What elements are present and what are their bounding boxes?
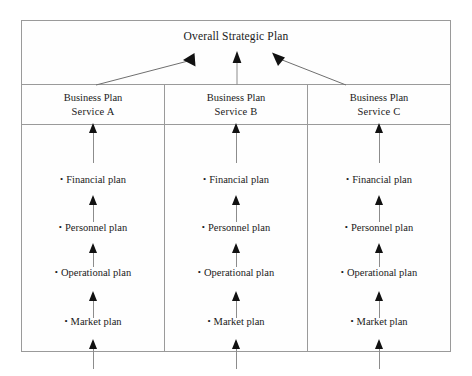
- arrow-head-personnel-to-financial: [89, 195, 97, 205]
- plan-item: •Personnel plan: [308, 222, 450, 233]
- plan-item: •Operational plan: [22, 267, 164, 278]
- plan-item-label: Operational plan: [347, 267, 417, 278]
- plan-item-label: Market plan: [71, 316, 122, 327]
- plan-item: •Financial plan: [22, 174, 164, 185]
- column-header-line2: Service B: [215, 105, 258, 119]
- plan-item-label: Personnel plan: [351, 222, 413, 233]
- arrow-head-operational-to-personnel: [232, 243, 240, 253]
- bullet-icon: •: [64, 316, 67, 326]
- arrow-head-to-header: [375, 123, 383, 133]
- column-header-line1: Business Plan: [350, 91, 409, 105]
- plan-item-label: Personnel plan: [65, 222, 127, 233]
- plan-item-label: Operational plan: [204, 267, 274, 278]
- arrow-head-into-market: [89, 339, 97, 349]
- plan-item: •Financial plan: [165, 174, 307, 185]
- bullet-icon: •: [202, 222, 205, 232]
- bullet-icon: •: [346, 174, 349, 184]
- bullet-icon: •: [55, 267, 58, 277]
- plan-item-label: Financial plan: [209, 174, 269, 185]
- plan-columns: •Financial plan •Personnel plan •Operati…: [22, 125, 450, 351]
- plan-item: •Market plan: [22, 316, 164, 327]
- column-header-service-a: Business Plan Service A: [22, 85, 165, 124]
- plan-item: •Market plan: [165, 316, 307, 327]
- plan-item: •Financial plan: [308, 174, 450, 185]
- plan-item-label: Financial plan: [352, 174, 412, 185]
- column-header-row: Business Plan Service A Business Plan Se…: [22, 85, 450, 125]
- plan-item: •Personnel plan: [165, 222, 307, 233]
- plan-item-label: Market plan: [214, 316, 265, 327]
- bullet-icon: •: [341, 267, 344, 277]
- plan-column-service-c: •Financial plan •Personnel plan •Operati…: [308, 125, 450, 351]
- column-header-line1: Business Plan: [207, 91, 266, 105]
- plan-item: •Operational plan: [165, 267, 307, 278]
- arrow-head-market-to-operational: [375, 291, 383, 301]
- column-header-line1: Business Plan: [64, 91, 123, 105]
- column-header-service-b: Business Plan Service B: [165, 85, 308, 124]
- bullet-icon: •: [198, 267, 201, 277]
- bullet-icon: •: [345, 222, 348, 232]
- plan-item: •Personnel plan: [22, 222, 164, 233]
- plan-column-service-b: •Financial plan •Personnel plan •Operati…: [165, 125, 308, 351]
- arrow-head-to-header: [232, 123, 240, 133]
- bullet-icon: •: [60, 174, 63, 184]
- strategic-plan-diagram: Overall Strategic Plan Business Plan Ser…: [21, 20, 451, 352]
- arrow-head-operational-to-personnel: [375, 243, 383, 253]
- plan-item: •Market plan: [308, 316, 450, 327]
- plan-item-label: Market plan: [357, 316, 408, 327]
- column-header-line2: Service A: [72, 105, 115, 119]
- plan-item-label: Operational plan: [61, 267, 131, 278]
- plan-item: •Operational plan: [308, 267, 450, 278]
- arrow-head-into-market: [232, 339, 240, 349]
- arrow-head-personnel-to-financial: [375, 195, 383, 205]
- plan-item-label: Financial plan: [66, 174, 126, 185]
- column-header-service-c: Business Plan Service C: [308, 85, 450, 124]
- bullet-icon: •: [203, 174, 206, 184]
- bullet-icon: •: [207, 316, 210, 326]
- arrow-head-into-market: [375, 339, 383, 349]
- arrow-head-personnel-to-financial: [232, 195, 240, 205]
- column-header-line2: Service C: [358, 105, 401, 119]
- page-title: Overall Strategic Plan: [22, 30, 450, 42]
- plan-item-label: Personnel plan: [208, 222, 270, 233]
- bullet-icon: •: [350, 316, 353, 326]
- overall-plan-band: Overall Strategic Plan: [22, 21, 450, 85]
- arrow-head-to-header: [89, 123, 97, 133]
- bullet-icon: •: [59, 222, 62, 232]
- arrow-head-market-to-operational: [89, 291, 97, 301]
- arrow-head-market-to-operational: [232, 291, 240, 301]
- arrow-head-operational-to-personnel: [89, 243, 97, 253]
- plan-column-service-a: •Financial plan •Personnel plan •Operati…: [22, 125, 165, 351]
